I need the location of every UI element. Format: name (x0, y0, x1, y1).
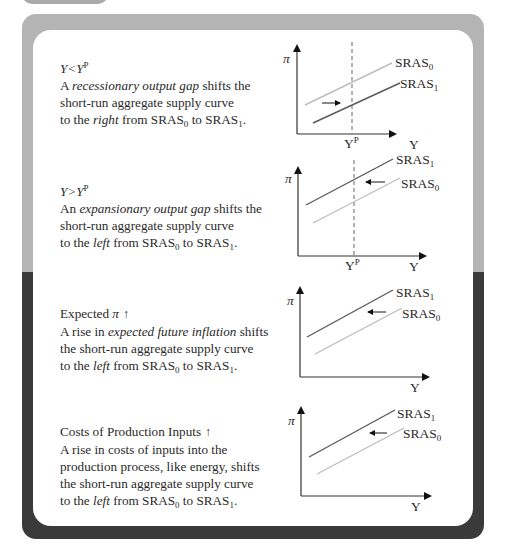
sras1-label: SRAS1 (397, 407, 435, 421)
graph-recessionary (297, 42, 400, 134)
sras0-label: SRAS0 (403, 427, 441, 441)
y-axis-label: π (287, 294, 294, 308)
y-axis-label: π (283, 52, 290, 66)
x-axis-label: Y (409, 138, 419, 152)
x-axis-label: Y (409, 260, 419, 274)
sras0-label: SRAS0 (395, 56, 433, 70)
x-axis-label: Y (411, 500, 421, 514)
y-axis-label: π (288, 414, 295, 428)
x-axis-label: Y (410, 381, 420, 395)
y-axis-label: π (285, 172, 292, 186)
sras0-label: SRAS0 (401, 177, 439, 191)
graph-production-costs (301, 408, 430, 496)
graph-expected-inflation (300, 288, 428, 377)
sras0-label: SRAS0 (402, 307, 440, 321)
potential-output-label: YP (345, 259, 360, 273)
sras1-label: SRAS1 (400, 77, 438, 91)
sras1-label: SRAS1 (396, 286, 434, 300)
graph-expansionary (298, 159, 425, 256)
sras1-label: SRAS1 (396, 153, 434, 167)
sras0-curve (305, 63, 392, 105)
potential-output-label: YP (344, 137, 359, 151)
